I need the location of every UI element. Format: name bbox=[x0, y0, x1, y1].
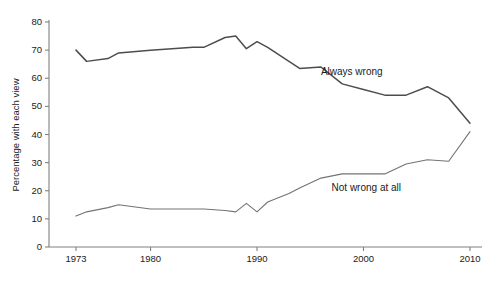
series-label-2: Not wrong at all bbox=[332, 182, 401, 193]
y-tick-label: 10 bbox=[31, 213, 42, 224]
x-tick-label: 2000 bbox=[353, 253, 374, 264]
y-tick-label: 30 bbox=[31, 157, 42, 168]
line-chart: 01020304050607080 19731980199020002010 A… bbox=[0, 0, 493, 294]
y-axis-title: Percentage with each view bbox=[10, 78, 21, 191]
y-tick-label: 60 bbox=[31, 72, 42, 83]
series-line-2 bbox=[76, 132, 470, 216]
x-tick-label: 1990 bbox=[246, 253, 267, 264]
series-label-1: Always wrong bbox=[321, 66, 383, 77]
x-axis: 19731980199020002010 bbox=[49, 247, 482, 264]
y-tick-label: 20 bbox=[31, 185, 42, 196]
data-series-group bbox=[76, 36, 470, 216]
series-line-1 bbox=[76, 36, 470, 123]
y-tick-label: 40 bbox=[31, 129, 42, 140]
chart-container: 01020304050607080 19731980199020002010 A… bbox=[0, 0, 493, 294]
y-tick-label: 70 bbox=[31, 44, 42, 55]
x-tick-label: 1973 bbox=[65, 253, 86, 264]
y-tick-label: 80 bbox=[31, 16, 42, 27]
y-tick-label: 0 bbox=[37, 241, 42, 252]
x-tick-label: 2010 bbox=[459, 253, 480, 264]
y-axis: 01020304050607080 bbox=[31, 16, 49, 252]
x-tick-label: 1980 bbox=[140, 253, 161, 264]
y-tick-label: 50 bbox=[31, 100, 42, 111]
